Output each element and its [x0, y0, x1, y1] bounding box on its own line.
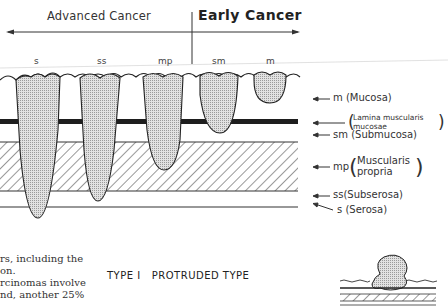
column-label-sm: sm — [212, 56, 225, 66]
tumor-s — [16, 74, 60, 218]
column-label-s: s — [34, 56, 39, 66]
column-label-m: m — [266, 56, 275, 66]
advanced-cancer-label: Advanced Cancer — [47, 9, 151, 23]
body-text-line-3: rcinomas involve — [0, 277, 86, 289]
layer-label-serosa: s (Serosa) — [337, 204, 387, 215]
column-label-mp: mp — [158, 56, 172, 66]
body-text-line-2: on. — [0, 265, 16, 277]
depth-arrow — [6, 30, 300, 35]
type-1-protruded-illustration — [340, 255, 437, 305]
tumor-m — [254, 72, 286, 103]
column-label-ss: ss — [97, 56, 106, 66]
early-cancer-label: Early Cancer — [198, 7, 302, 23]
type-1-label: TYPE I PROTRUDED TYPE — [107, 270, 249, 281]
type-roman: TYPE I — [107, 270, 141, 281]
body-text-line-4: nd, another 25% — [0, 289, 84, 301]
type-name: PROTRUDED TYPE — [152, 270, 250, 281]
layer-label-subserosa: ss(Subserosa) — [333, 189, 403, 200]
layer-label-submucosa: sm (Submucosa) — [333, 129, 417, 140]
body-text-line-1: rs, including the — [0, 253, 83, 265]
layer-label-mucosa: m (Mucosa) — [333, 92, 392, 103]
